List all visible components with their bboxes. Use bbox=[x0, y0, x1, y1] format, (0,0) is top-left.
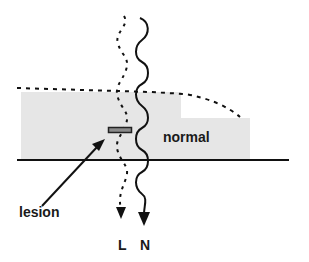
lesion-label: lesion bbox=[19, 204, 59, 220]
path-N-label: N bbox=[140, 237, 150, 253]
normal-label: normal bbox=[163, 129, 210, 145]
lesion-bar bbox=[109, 128, 132, 133]
arrowhead-N-icon bbox=[138, 212, 150, 226]
diagram-canvas bbox=[0, 0, 309, 262]
path-L-label: L bbox=[118, 237, 127, 253]
arrowhead-L-icon bbox=[116, 207, 126, 219]
